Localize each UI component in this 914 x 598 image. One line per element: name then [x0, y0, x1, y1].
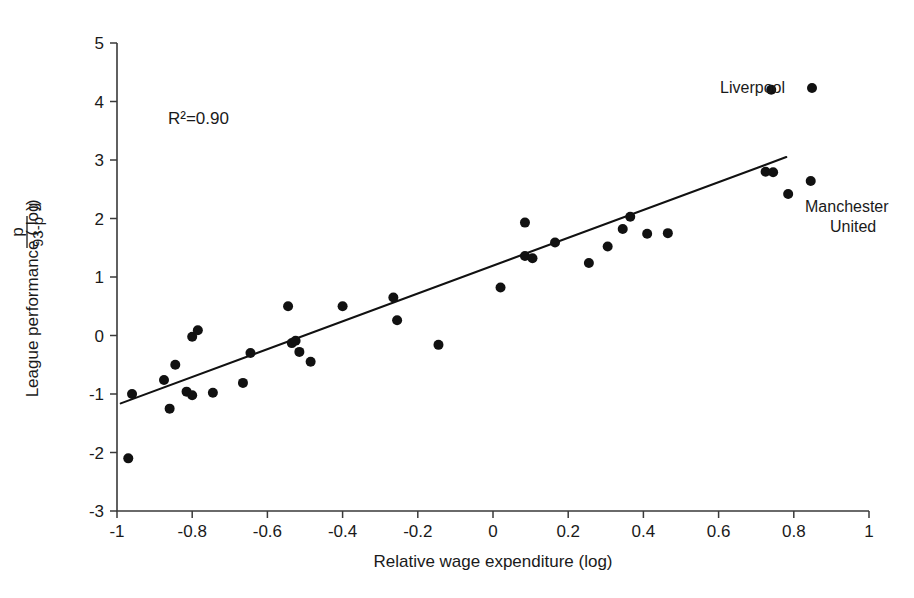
x-tick-label: 0.2	[556, 522, 580, 541]
data-point	[618, 224, 628, 234]
axis-spines	[117, 43, 869, 511]
regression-trend-line	[121, 157, 787, 403]
plot-canvas: -1-0.8-0.6-0.4-0.200.20.40.60.81 -3-2-10…	[0, 0, 914, 598]
data-point	[433, 340, 443, 350]
x-tick-label: -0.8	[178, 522, 207, 541]
data-point	[496, 283, 506, 293]
y-axis-title-suffix: ))	[23, 199, 42, 210]
y-tick-label: -3	[89, 502, 104, 521]
data-point	[159, 375, 169, 385]
data-point	[187, 390, 197, 400]
liverpool-marker-dot	[807, 83, 817, 93]
axes	[117, 43, 869, 511]
data-point	[208, 388, 218, 398]
x-tick-label: 0.6	[707, 522, 731, 541]
scatter-plot-figure: -1-0.8-0.6-0.4-0.200.20.40.60.81 -3-2-10…	[0, 0, 914, 598]
x-tick-label: 0.8	[782, 522, 806, 541]
y-tick-label: 2	[95, 210, 104, 229]
y-tick-label: -1	[89, 385, 104, 404]
data-point	[392, 315, 402, 325]
data-point	[238, 378, 248, 388]
x-tick-label: -0.4	[328, 522, 357, 541]
data-point	[550, 237, 560, 247]
data-point	[170, 360, 180, 370]
manchester-united-label-line2: United	[830, 218, 876, 235]
data-point-labeled	[783, 189, 793, 199]
y-axis-title-fraction: p 93-p	[8, 216, 46, 248]
x-axis-title: Relative wage expenditure (log)	[373, 552, 612, 571]
y-tick-label: -2	[89, 444, 104, 463]
manchester-united-label-line1: Manchester	[805, 198, 889, 215]
x-tick-label: -0.2	[403, 522, 432, 541]
data-point	[625, 212, 635, 222]
fraction-numerator: p	[8, 227, 27, 236]
data-point	[642, 229, 652, 239]
y-tick-label: 0	[95, 327, 104, 346]
fraction-denominator: 93-p	[29, 217, 46, 247]
data-point	[193, 325, 203, 335]
data-point	[388, 292, 398, 302]
data-point	[338, 301, 348, 311]
x-tick-label: 1	[864, 522, 873, 541]
x-tick-label: 0.4	[632, 522, 656, 541]
data-point	[663, 228, 673, 238]
x-tick-label: -0.6	[253, 522, 282, 541]
data-point	[127, 389, 137, 399]
regression-line	[121, 157, 787, 403]
y-tick-label: 1	[95, 268, 104, 287]
data-point	[283, 301, 293, 311]
y-tick-labels: -3-2-1012345	[89, 34, 104, 521]
y-tick-label: 4	[95, 93, 104, 112]
y-tick-label: 3	[95, 151, 104, 170]
data-point	[584, 258, 594, 268]
r-squared-annotation: R²=0.90	[168, 109, 229, 128]
data-point	[294, 347, 304, 357]
x-tick-label: 0	[488, 522, 497, 541]
liverpool-label: Liverpool	[720, 79, 785, 96]
x-tick-labels: -1-0.8-0.6-0.4-0.200.20.40.60.81	[109, 522, 873, 541]
data-point	[291, 336, 301, 346]
data-point	[520, 218, 530, 228]
data-point	[603, 242, 613, 252]
data-point	[806, 176, 816, 186]
data-point	[165, 404, 175, 414]
data-point	[768, 167, 778, 177]
data-point	[527, 253, 537, 263]
data-point	[123, 453, 133, 463]
data-point	[245, 348, 255, 358]
x-tick-label: -1	[109, 522, 124, 541]
data-point	[306, 357, 316, 367]
y-axis-title: League performance ( log p 93-p ))	[8, 199, 46, 397]
y-tick-label: 5	[95, 34, 104, 53]
